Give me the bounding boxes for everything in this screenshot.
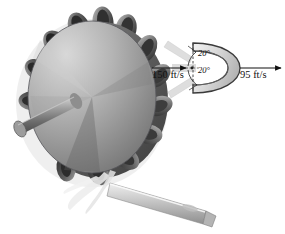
figure-canvas: 150 ft/s 95 ft/s 20° 20° [0,0,285,234]
outlet-speed-label: 95 ft/s [240,70,267,81]
wheel-disc [28,21,156,173]
bottom-deflection-angle-label: 20° [198,66,210,75]
inlet-speed-label: 150 ft/s [152,70,184,81]
water-nozzle [107,183,216,227]
splitter-point [191,67,194,70]
top-deflection-angle-label: 20° [198,49,210,58]
pelton-wheel [11,6,216,227]
figure-svg [0,0,285,234]
